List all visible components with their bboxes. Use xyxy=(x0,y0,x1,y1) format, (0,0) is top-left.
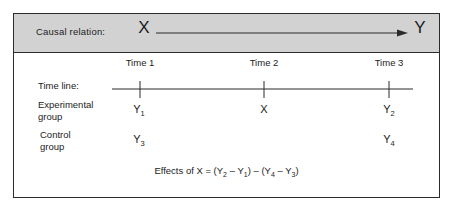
timeline-tick-label-3: Time 3 xyxy=(359,57,419,68)
cell-base: X xyxy=(260,103,267,115)
effects-sub-4: 3 xyxy=(292,171,296,178)
causal-relation-band: Causal relation: X Y xyxy=(14,14,439,53)
cell-base: Y xyxy=(383,133,390,145)
effects-mid-3: – Y xyxy=(275,165,292,176)
cell-experimental-time3: Y2 xyxy=(367,103,411,115)
cell-base: Y xyxy=(133,103,140,115)
figure-frame: Causal relation: X Y Tim xyxy=(13,13,440,198)
cell-base: Y xyxy=(383,103,390,115)
effects-mid-1: – Y xyxy=(227,165,244,176)
effects-sub-1: 2 xyxy=(223,171,227,178)
effects-formula: Effects of X = (Y2 – Y1) – (Y4 – Y3) xyxy=(14,165,439,176)
effects-sub-2: 1 xyxy=(244,171,248,178)
experimental-group-label: Experimental group xyxy=(38,99,93,122)
effects-sub-3: 4 xyxy=(271,171,275,178)
cell-subscript: 4 xyxy=(391,139,395,148)
timeline-row-label: Time line: xyxy=(38,80,79,92)
causal-effect-variable: Y xyxy=(408,18,432,38)
cell-experimental-time1: Y1 xyxy=(117,103,161,115)
cell-subscript: 3 xyxy=(141,139,145,148)
cell-control-time3: Y4 xyxy=(367,133,411,145)
causal-relation-label: Causal relation: xyxy=(36,26,105,37)
timeline-axis xyxy=(14,53,441,199)
cell-experimental-time2: X xyxy=(242,103,286,115)
timeline-tick-label-1: Time 1 xyxy=(110,57,170,68)
figure-body: Time 1 Time 2 Time 3 Time line: Experime… xyxy=(14,53,439,197)
cell-control-time1: Y3 xyxy=(117,133,161,145)
cell-base: Y xyxy=(133,133,140,145)
effects-suffix: ) xyxy=(295,165,298,176)
cell-subscript: 2 xyxy=(391,109,395,118)
causal-cause-variable: X xyxy=(132,18,156,38)
control-group-label: Control group xyxy=(40,129,71,152)
cell-subscript: 1 xyxy=(141,109,145,118)
effects-mid-2: ) – (Y xyxy=(248,165,271,176)
effects-prefix: Effects of X = (Y xyxy=(154,165,223,176)
causal-relation-figure: Causal relation: X Y Tim xyxy=(0,0,456,212)
rightwards-arrow-icon xyxy=(156,25,408,37)
timeline-tick-label-2: Time 2 xyxy=(234,57,294,68)
